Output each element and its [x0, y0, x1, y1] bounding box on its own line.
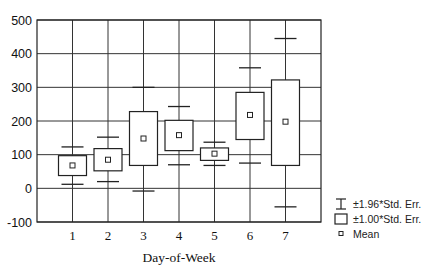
y-tick-label: 200: [11, 115, 32, 129]
legend-item: ±1.00*Std. Err.: [335, 213, 421, 225]
legend-label: ±1.96*Std. Err.: [353, 198, 421, 210]
y-tick-label: -100: [7, 216, 32, 230]
y-tick-label: 0: [25, 182, 32, 196]
x-tick-label: 7: [282, 228, 289, 243]
mean-marker: [70, 163, 75, 168]
x-tick-label: 4: [176, 228, 183, 243]
legend-label: ±1.00*Std. Err.: [353, 213, 421, 225]
x-tick-label: 6: [247, 228, 254, 243]
mean-marker: [212, 151, 217, 156]
x-tick-label: 1: [69, 228, 76, 243]
mean-marker: [106, 157, 111, 162]
legend: ±1.96*Std. Err.±1.00*Std. Err.Mean: [335, 198, 421, 240]
box-icon: [335, 214, 347, 224]
y-axis-ticks: 5004003002001000-100: [7, 14, 32, 230]
legend-item: Mean: [339, 228, 379, 240]
y-tick-label: 100: [11, 148, 32, 162]
mean-marker: [141, 136, 146, 141]
x-axis-ticks: 1234567: [69, 228, 289, 243]
legend-item: ±1.96*Std. Err.: [336, 198, 421, 210]
x-tick-label: 2: [105, 228, 112, 243]
x-tick-label: 5: [211, 228, 218, 243]
mean-marker: [177, 133, 182, 138]
legend-label: Mean: [353, 228, 379, 240]
mean-marker: [248, 112, 253, 117]
mean-marker: [283, 119, 288, 124]
y-tick-label: 400: [11, 47, 32, 61]
x-axis-title: Day-of-Week: [142, 250, 215, 265]
x-tick-label: 3: [140, 228, 147, 243]
box-plot-chart: 5004003002001000-100 1234567 Day-of-Week…: [0, 0, 432, 273]
y-tick-label: 500: [11, 14, 32, 28]
mean-square-icon: [339, 232, 343, 236]
y-tick-label: 300: [11, 81, 32, 95]
